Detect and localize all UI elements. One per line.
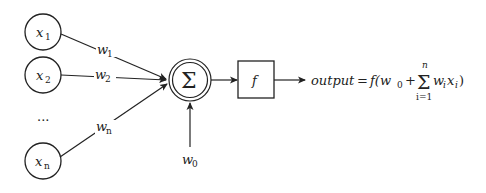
formula-sum-upper: n <box>422 60 428 70</box>
formula-term-x: x <box>447 73 455 88</box>
bias-edge: w 0 <box>182 103 198 169</box>
input-x2-sub: 2 <box>45 75 51 85</box>
weight-w2-sub: 2 <box>105 74 111 84</box>
formula-close: ) <box>459 73 464 88</box>
formula-term-x-sub: i <box>455 80 458 90</box>
weight-w1-sub: 1 <box>107 49 113 59</box>
formula-term-w-sub: i <box>443 80 446 90</box>
formula-func-open: f(w <box>369 73 391 88</box>
formula-output: output <box>311 73 355 88</box>
input-x2-label: x <box>36 68 44 83</box>
sigma-icon: Σ <box>181 68 197 93</box>
input-node-x2: x 2 <box>25 57 61 93</box>
edge-wn: w n <box>60 84 167 157</box>
summation-node: Σ <box>169 59 211 101</box>
input-node-x1: x 1 <box>25 14 61 50</box>
output-formula: output = f(w 0 + Σ n i=1 w i x i ) <box>311 60 464 102</box>
perceptron-diagram: x 1 x 2 ... x n w 1 w 2 w n Σ <box>0 0 486 193</box>
input-x1-label: x <box>36 25 44 40</box>
input-xn-sub: n <box>44 161 50 171</box>
formula-sum-lower: i=1 <box>416 92 432 102</box>
activation-node: f <box>238 61 274 98</box>
formula-equals: = <box>357 73 368 88</box>
input-xn-label: x <box>35 154 43 169</box>
formula-bias-sub: 0 <box>397 80 403 90</box>
bias-w0-sub: 0 <box>192 159 198 169</box>
ellipsis: ... <box>37 109 49 124</box>
formula-sum-symbol: Σ <box>417 71 430 93</box>
weight-wn-sub: n <box>106 126 112 136</box>
activation-f-label: f <box>251 73 259 88</box>
edge-w2: w 2 <box>61 67 166 84</box>
input-node-xn: x n <box>25 143 61 179</box>
input-x1-sub: 1 <box>45 32 51 42</box>
formula-plus: + <box>405 73 416 88</box>
